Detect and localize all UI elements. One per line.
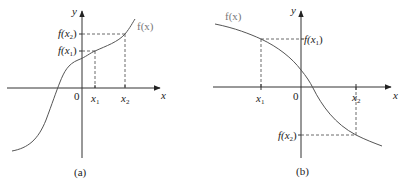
y-tick-label-f-x1: f(x1) <box>58 44 77 58</box>
panel-a: y f(x) f(x2) f(x1) 0 x1 x2 x (a) <box>7 5 166 179</box>
function-label: f(x) <box>137 20 154 33</box>
y-tick-label-f-x1: f(x1) <box>304 33 323 47</box>
panel-b: f(x) y f(x1) f(x2) 0 x1 x2 x (b) <box>213 4 398 178</box>
dashed-guides <box>82 34 125 88</box>
x-axis-label: x <box>160 89 166 101</box>
origin-label: 0 <box>74 90 80 102</box>
y-tick-label-f-x2: f(x2) <box>278 129 297 143</box>
panel-caption-a: (a) <box>74 166 87 179</box>
y-axis-label: y <box>71 5 77 17</box>
x-tick-label-x2: x2 <box>120 92 130 106</box>
x-axis-label: x <box>392 89 398 101</box>
x-tick-label-x1: x1 <box>255 92 265 106</box>
x-tick-label-x1: x1 <box>90 92 100 106</box>
y-axis-label: y <box>290 4 296 16</box>
function-label: f(x) <box>225 10 242 23</box>
origin-label: 0 <box>293 90 299 102</box>
figure: y f(x) f(x2) f(x1) 0 x1 x2 x (a) f(x) y … <box>0 0 401 187</box>
y-tick-label-f-x2: f(x2) <box>58 27 77 41</box>
function-curve <box>215 24 382 146</box>
x-tick-label-x2: x2 <box>351 91 361 105</box>
panel-caption-b: (b) <box>296 165 309 178</box>
